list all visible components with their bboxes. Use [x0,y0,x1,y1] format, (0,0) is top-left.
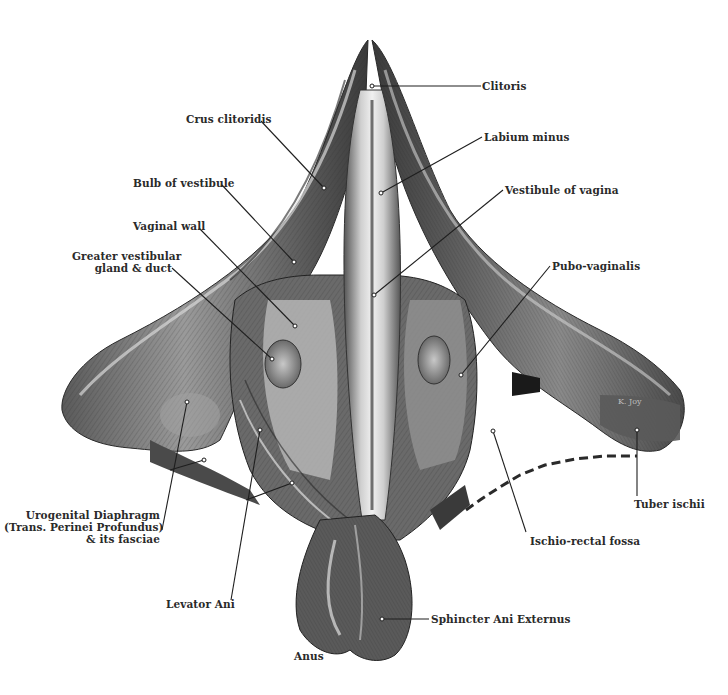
tuber-ischii-endpoint [635,428,639,432]
label-ischio-rectal-fossa: Ischio-rectal fossa [530,535,640,547]
crus-clitoridis-leader [261,121,324,188]
label-vestibule-of-vagina: Vestibule of vagina [505,184,619,196]
label-anus: Anus [294,650,324,662]
label-labium-minus: Labium minus [484,131,569,143]
label-vaginal-wall: Vaginal wall [133,220,205,232]
anal-sphincter [296,515,412,660]
sphincter-ani-externus-endpoint [380,617,384,621]
artist-signature: K. Joy [618,397,642,406]
urogenital-diaphragm-extra-endpoint [202,458,206,462]
greater-vestibular-gland-endpoint [270,357,274,361]
label-bulb-of-vestibule: Bulb of vestibule [133,177,235,189]
label-sphincter-ani-externus: Sphincter Ani Externus [431,613,570,625]
label-pubo-vaginalis: Pubo-vaginalis [552,260,640,272]
perineum-illustration: K. Joy [0,0,728,695]
crus-clitoridis-endpoint [322,186,326,190]
label-levator-ani: Levator Ani [166,598,235,610]
clitoris-endpoint [370,84,374,88]
vaginal-wall-endpoint [293,324,297,328]
labium-minus-endpoint [379,191,383,195]
levator-ani-endpoint [258,428,262,432]
label-crus-clitoridis: Crus clitoridis [186,113,272,125]
label-tuber-ischii: Tuber ischii [634,498,705,510]
urogenital-diaphragm-endpoint [185,400,189,404]
bulb-of-vestibule-endpoint [292,260,296,264]
label-greater-vestibular-gland: Greater vestibular gland & duct [72,250,172,274]
ischio-rectal-fossa-leader [493,431,526,532]
ischio-rectal-fossa-boundary [466,456,637,510]
ischio-rectal-fossa-endpoint [491,429,495,433]
levator-ani-extra-endpoint [290,481,294,485]
label-urogenital-diaphragm: Urogenital Diaphragm (Trans. Perinei Pro… [4,509,160,545]
label-clitoris: Clitoris [482,80,526,92]
vestibule-of-vagina-endpoint [372,293,376,297]
pubo-vaginalis-endpoint [459,373,463,377]
